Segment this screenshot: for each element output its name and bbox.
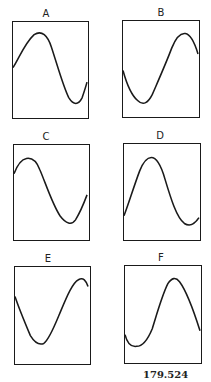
figure-caption: 179.524 — [143, 369, 188, 380]
sine-wave-icon — [125, 266, 200, 362]
panel-label-b: B — [151, 8, 171, 18]
waveform-trace — [124, 158, 199, 225]
waveform-panel-d — [123, 143, 201, 241]
waveform-panel-e — [14, 266, 91, 365]
panel-label-f: F — [151, 253, 171, 263]
waveform-trace — [125, 279, 200, 347]
waveform-panel-f — [124, 265, 202, 364]
sine-wave-icon — [124, 144, 199, 239]
panel-label-a: A — [36, 9, 56, 19]
waveform-trace — [15, 279, 88, 344]
waveform-trace — [14, 158, 87, 223]
panel-label-d: D — [150, 131, 170, 141]
panel-label-e: E — [38, 254, 58, 264]
sine-wave-icon — [15, 267, 89, 363]
waveform-panel-a — [12, 21, 89, 119]
panel-label-c: C — [36, 132, 56, 142]
waveform-trace — [13, 33, 87, 104]
sine-wave-icon — [13, 22, 87, 117]
waveform-panel-b — [122, 20, 200, 118]
waveform-trace — [123, 33, 198, 103]
sine-wave-icon — [123, 21, 198, 116]
sine-wave-icon — [14, 145, 88, 239]
waveform-panel-c — [13, 144, 90, 241]
